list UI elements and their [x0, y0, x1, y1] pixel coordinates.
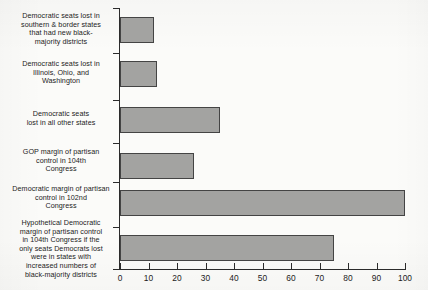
x-axis-tick-label: 40 [219, 273, 249, 283]
x-axis-tick [320, 263, 321, 270]
y-axis-tick [113, 269, 119, 270]
x-axis-tick [405, 263, 406, 270]
x-axis-tick [348, 263, 349, 270]
x-axis-tick-label: 60 [276, 273, 306, 283]
x-axis-tick-label: 70 [305, 273, 335, 283]
x-axis-tick [149, 263, 150, 270]
x-axis-tick-label: 10 [134, 273, 164, 283]
y-axis-tick [113, 8, 119, 9]
category-label-1: Democratic seats lost in Illinois, Ohio,… [4, 60, 118, 86]
y-axis-tick [113, 182, 119, 183]
x-axis-tick-label: 90 [362, 273, 392, 283]
chart-page: Democratic seats lost in southern & bord… [0, 0, 428, 290]
bar-3 [120, 153, 194, 179]
y-axis-line [119, 8, 120, 270]
bar-2 [120, 107, 220, 133]
bar-0 [120, 17, 154, 43]
x-axis-tick [120, 263, 121, 270]
x-axis-tick [177, 263, 178, 270]
x-axis-tick-label: 0 [105, 273, 135, 283]
y-axis-tick [113, 53, 119, 54]
category-label-3: GOP margin of partisan control in 104th … [4, 148, 118, 174]
x-axis-tick-label: 30 [191, 273, 221, 283]
x-axis-tick-label: 50 [248, 273, 278, 283]
x-axis-tick-label: 100 [390, 273, 420, 283]
x-axis-tick-label: 80 [333, 273, 363, 283]
bar-5 [120, 235, 334, 261]
x-axis-tick [377, 263, 378, 270]
horizontal-bar-chart: Democratic seats lost in southern & bord… [0, 0, 428, 290]
x-axis-tick [263, 263, 264, 270]
x-axis-tick [206, 263, 207, 270]
x-axis-tick [291, 263, 292, 270]
y-axis-tick [113, 143, 119, 144]
bar-1 [120, 61, 157, 87]
bar-4 [120, 190, 405, 216]
y-axis-tick [113, 100, 119, 101]
category-label-2: Democratic seats lost in all other state… [4, 110, 118, 127]
category-label-5: Hypothetical Democratic margin of partis… [4, 219, 118, 279]
category-label-4: Democratic margin of partisan control in… [4, 185, 118, 211]
category-label-0: Democratic seats lost in southern & bord… [4, 12, 118, 46]
y-axis-tick [113, 227, 119, 228]
x-axis-tick [234, 263, 235, 270]
x-axis-tick-label: 20 [162, 273, 192, 283]
